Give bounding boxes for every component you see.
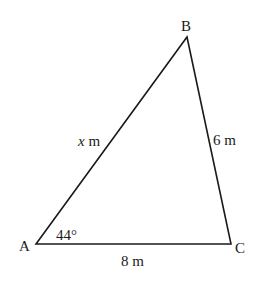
vertex-label-c: C <box>235 240 245 256</box>
side-label-ac: 8 m <box>121 253 144 269</box>
side-label-bc: 6 m <box>213 132 236 148</box>
side-label-ab: x m <box>77 133 100 149</box>
side-ab-unit: m <box>85 133 101 149</box>
triangle-diagram: A B C x m 6 m 8 m 44° <box>0 0 259 282</box>
vertex-label-b: B <box>181 18 191 34</box>
triangle-abc <box>36 37 231 244</box>
vertex-label-a: A <box>19 238 30 254</box>
triangle-svg: A B C x m 6 m 8 m 44° <box>0 0 259 282</box>
angle-label-a: 44° <box>56 227 77 243</box>
